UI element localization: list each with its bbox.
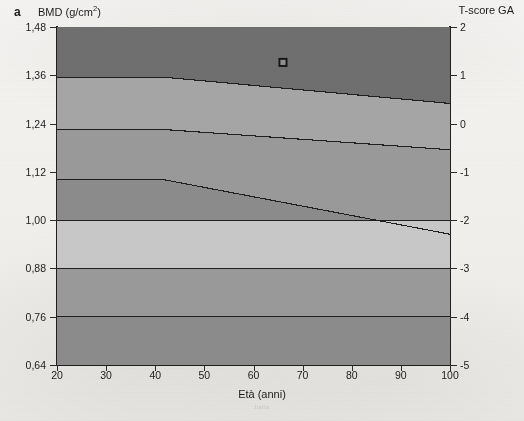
left-axis-title-tail: ) — [97, 6, 101, 18]
y-axis-left-tick-label: 0,88 — [26, 262, 46, 274]
x-axis-tick-mark — [254, 365, 255, 371]
x-axis-tick-mark — [106, 365, 107, 371]
tscore-band — [57, 268, 450, 316]
y-axis-right-tick-mark — [450, 220, 457, 221]
y-axis-left-tick-mark — [50, 124, 57, 125]
band-chart-svg — [57, 27, 450, 365]
tscore-band — [57, 220, 450, 268]
x-axis-tick-mark — [57, 365, 58, 371]
y-axis-right-tick-label: -4 — [460, 311, 469, 323]
y-axis-right-tick-mark — [450, 124, 457, 125]
y-axis-left-tick-label: 1,12 — [26, 166, 46, 178]
y-axis-left-tick-mark — [50, 27, 57, 28]
x-axis-tick-mark — [204, 365, 205, 371]
x-axis-tick-labels: 2030405060708090100 — [0, 369, 524, 387]
x-axis-tick-mark — [303, 365, 304, 371]
y-axis-left-tick-mark — [50, 317, 57, 318]
y-axis-left-tick-label: 1,36 — [26, 69, 46, 81]
y-axis-right-tick-mark — [450, 172, 457, 173]
y-axis-left-tick-mark — [50, 365, 57, 366]
y-axis-left-tick-mark — [50, 75, 57, 76]
patient-marker-core — [280, 60, 285, 65]
figure-panel: a BMD (g/cm2) T-score GA 0,640,760,881,0… — [0, 0, 524, 421]
y-axis-left-tick-labels: 0,640,760,881,001,121,241,361,48 — [0, 0, 50, 421]
y-axis-left-tick-mark — [50, 268, 57, 269]
x-axis-title: Età (anni) — [0, 388, 524, 400]
y-axis-right-tick-label: -1 — [460, 166, 469, 178]
tscore-band — [57, 317, 450, 365]
x-axis-tick-mark — [401, 365, 402, 371]
y-axis-right-tick-mark — [450, 27, 457, 28]
y-axis-right-tick-label: -2 — [460, 214, 469, 226]
y-axis-right-tick-mark — [450, 365, 457, 366]
y-axis-right-tick-label: 2 — [460, 21, 466, 33]
y-axis-right-tick-label: -3 — [460, 262, 469, 274]
y-axis-left-tick-mark — [50, 172, 57, 173]
y-axis-left-tick-label: 1,00 — [26, 214, 46, 226]
y-axis-right-tick-label: 1 — [460, 69, 466, 81]
x-axis-tick-mark — [450, 365, 451, 371]
y-axis-right-tick-mark — [450, 268, 457, 269]
y-axis-left-tick-label: 0,76 — [26, 311, 46, 323]
y-axis-right-tick-labels: -5-4-3-2-1012 — [460, 0, 506, 421]
y-axis-right-tick-mark — [450, 317, 457, 318]
y-axis-right-tick-label: 0 — [460, 118, 466, 130]
y-axis-left-tick-label: 1,24 — [26, 118, 46, 130]
data-markers — [278, 58, 287, 67]
y-axis-left-tick-label: 1,48 — [26, 21, 46, 33]
y-axis-right-tick-mark — [450, 75, 457, 76]
x-axis-tick-mark — [155, 365, 156, 371]
y-axis-left-tick-mark — [50, 220, 57, 221]
x-axis-tick-mark — [352, 365, 353, 371]
bleed-through-text: Italia — [0, 404, 524, 410]
plot-area — [57, 27, 450, 365]
